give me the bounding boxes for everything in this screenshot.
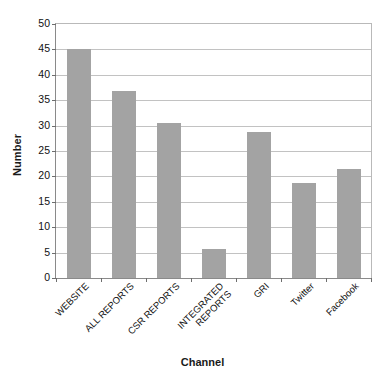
bar-series [56, 24, 371, 278]
y-axis-tickmark [52, 176, 56, 177]
x-axis-title: Channel [0, 356, 387, 368]
y-axis-tick-label: 15 [26, 196, 50, 207]
x-axis-title-text: Channel [181, 356, 224, 368]
y-axis-tickmark [52, 126, 56, 127]
y-axis-tick-label: 5 [26, 246, 50, 257]
y-axis-tick-labels: 05101520253035404550 [26, 17, 50, 283]
bar-slot [101, 24, 146, 278]
y-axis-tick-label: 20 [26, 170, 50, 181]
bar[interactable] [247, 132, 271, 278]
x-axis-tick-label-line: Facebook [323, 280, 360, 317]
y-axis-tick-label: 30 [26, 119, 50, 130]
bar[interactable] [67, 49, 91, 278]
x-axis-tick-label-line: Twitter [288, 280, 316, 308]
bar[interactable] [112, 91, 136, 278]
bar-slot [281, 24, 326, 278]
bar-slot [146, 24, 191, 278]
x-axis-tick-label: GRI [251, 281, 270, 300]
bar-slot [326, 24, 371, 278]
y-axis-tick-label: 35 [26, 94, 50, 105]
x-axis-tick-label: INTEGRATEDREPORTS [175, 281, 233, 339]
y-axis-tick-label: 25 [26, 145, 50, 156]
y-axis-title-text: Number [11, 134, 23, 176]
y-axis-tickmark [52, 49, 56, 50]
x-axis-tick-labels: WEBSITEALL REPORTSCSR REPORTSINTEGRATEDR… [55, 281, 372, 353]
y-axis-tickmark [52, 151, 56, 152]
x-axis-tick-label: Facebook [324, 281, 361, 318]
y-axis-tickmark [52, 75, 56, 76]
y-axis-tickmark [52, 202, 56, 203]
y-axis-title: Number [6, 120, 28, 190]
y-axis-tickmark [52, 253, 56, 254]
y-axis-tick-label: 50 [26, 18, 50, 29]
y-axis-tick-label: 45 [26, 43, 50, 54]
bar[interactable] [337, 169, 361, 278]
bar-slot [236, 24, 281, 278]
x-axis-tick-label-line: GRI [251, 280, 271, 300]
bar[interactable] [157, 123, 181, 278]
bar[interactable] [202, 249, 226, 278]
bar-chart: Number 05101520253035404550 WEBSITEALL R… [0, 0, 387, 381]
y-axis-tick-label: 10 [26, 221, 50, 232]
plot-area [55, 23, 372, 279]
y-axis-tick-label: 0 [26, 272, 50, 283]
x-axis-tick-label-line: WEBSITE [52, 280, 90, 318]
x-axis-tick-label: WEBSITE [53, 281, 91, 319]
y-axis-tickmark [52, 24, 56, 25]
x-axis-tick-label: Twitter [289, 281, 316, 308]
y-axis-tickmark [52, 100, 56, 101]
y-axis-tick-label: 40 [26, 69, 50, 80]
bar-slot [56, 24, 101, 278]
y-axis-tickmark [52, 227, 56, 228]
bar-slot [191, 24, 236, 278]
bar[interactable] [292, 183, 316, 278]
